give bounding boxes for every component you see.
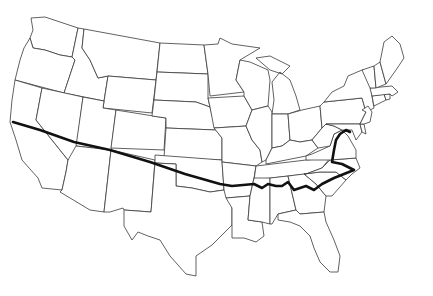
state-iowa xyxy=(208,96,252,128)
state-north-dakota xyxy=(157,43,208,74)
state-new-mexico xyxy=(104,150,155,212)
state-pennsylvania xyxy=(320,98,366,128)
state-florida xyxy=(278,210,340,272)
us-map xyxy=(0,0,433,296)
state-outlines xyxy=(10,17,404,276)
state-kansas xyxy=(164,128,222,160)
state-wyoming xyxy=(103,76,156,113)
